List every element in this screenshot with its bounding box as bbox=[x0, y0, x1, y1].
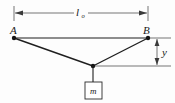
cable-a-to-junction bbox=[14, 38, 93, 66]
node-dot-b bbox=[146, 36, 150, 40]
span-arrow-left-icon bbox=[15, 10, 23, 15]
sag-arrow-down-icon bbox=[155, 58, 160, 65]
sag-label-y: y bbox=[161, 46, 167, 58]
sag-arrow-up-icon bbox=[155, 39, 160, 46]
cable-b-to-junction bbox=[93, 38, 148, 66]
support-label-b: B bbox=[143, 24, 150, 36]
span-label-l: l bbox=[76, 6, 79, 18]
statics-cable-diagram: l o A B y m bbox=[0, 0, 175, 103]
node-dot-a bbox=[12, 36, 16, 40]
mass-label-m: m bbox=[90, 86, 97, 96]
span-arrow-right-icon bbox=[139, 10, 147, 15]
support-label-a: A bbox=[9, 24, 17, 36]
diagram-canvas: l o A B y m bbox=[0, 0, 175, 103]
